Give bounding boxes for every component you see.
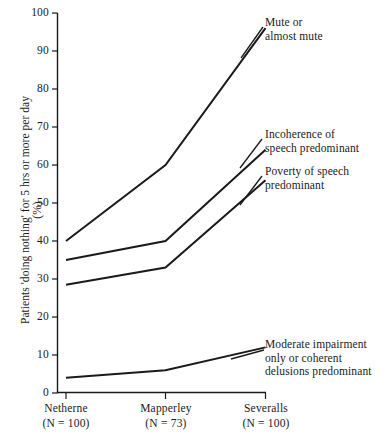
x-axis-ticks — [66, 393, 266, 400]
y-tick-label: 80 — [23, 83, 49, 95]
leader-line-poverty — [240, 176, 262, 205]
series-line-mute-or-almost-mute — [66, 28, 266, 241]
y-tick-label: 0 — [23, 387, 49, 399]
y-tick-label: 100 — [19, 7, 49, 19]
y-tick-label: 90 — [23, 45, 49, 57]
x-tick-label: Netherne — [11, 401, 121, 416]
chart-container: 100 90 80 70 60 50 40 30 20 10 0 Patient… — [0, 0, 385, 439]
y-axis-title: Patients 'doing nothing' for 5 hrs or mo… — [19, 95, 43, 325]
series-line-incoherence-of-speech — [66, 150, 266, 260]
annotation-line: Mute or — [265, 16, 323, 30]
annotation-line: Poverty of speech — [265, 165, 349, 179]
annotation-line: almost mute — [265, 30, 323, 44]
annotation-line: predominant — [265, 179, 349, 193]
series-line-moderate-impairment — [66, 347, 266, 377]
x-tick-group-mapperley: Mapperley (N = 73) — [111, 401, 221, 430]
annotation-line: only or coherent — [265, 352, 372, 366]
x-tick-label: Severalls — [211, 401, 321, 416]
x-tick-sublabel: (N = 100) — [211, 416, 321, 431]
annotation-mute-or-almost-mute: Mute or almost mute — [265, 16, 323, 43]
x-tick-sublabel: (N = 100) — [11, 416, 121, 431]
leader-line-mute — [241, 27, 263, 58]
annotation-poverty-of-speech: Poverty of speech predominant — [265, 165, 349, 192]
series-line-poverty-of-speech — [66, 180, 266, 285]
annotation-line: delusions predominant — [265, 365, 372, 379]
x-tick-group-severalls: Severalls (N = 100) — [211, 401, 321, 430]
annotation-moderate-impairment: Moderate impairment only or coherent del… — [265, 338, 372, 379]
x-tick-label: Mapperley — [111, 401, 221, 416]
annotation-line: Incoherence of — [265, 128, 359, 142]
annotation-line: Moderate impairment — [265, 338, 372, 352]
y-axis-ticks — [52, 13, 58, 393]
x-tick-group-netherne: Netherne (N = 100) — [11, 401, 121, 430]
annotation-incoherence-of-speech: Incoherence of speech predominant — [265, 128, 359, 155]
annotation-line: speech predominant — [265, 142, 359, 156]
x-tick-sublabel: (N = 73) — [111, 416, 221, 431]
y-tick-label: 10 — [23, 349, 49, 361]
